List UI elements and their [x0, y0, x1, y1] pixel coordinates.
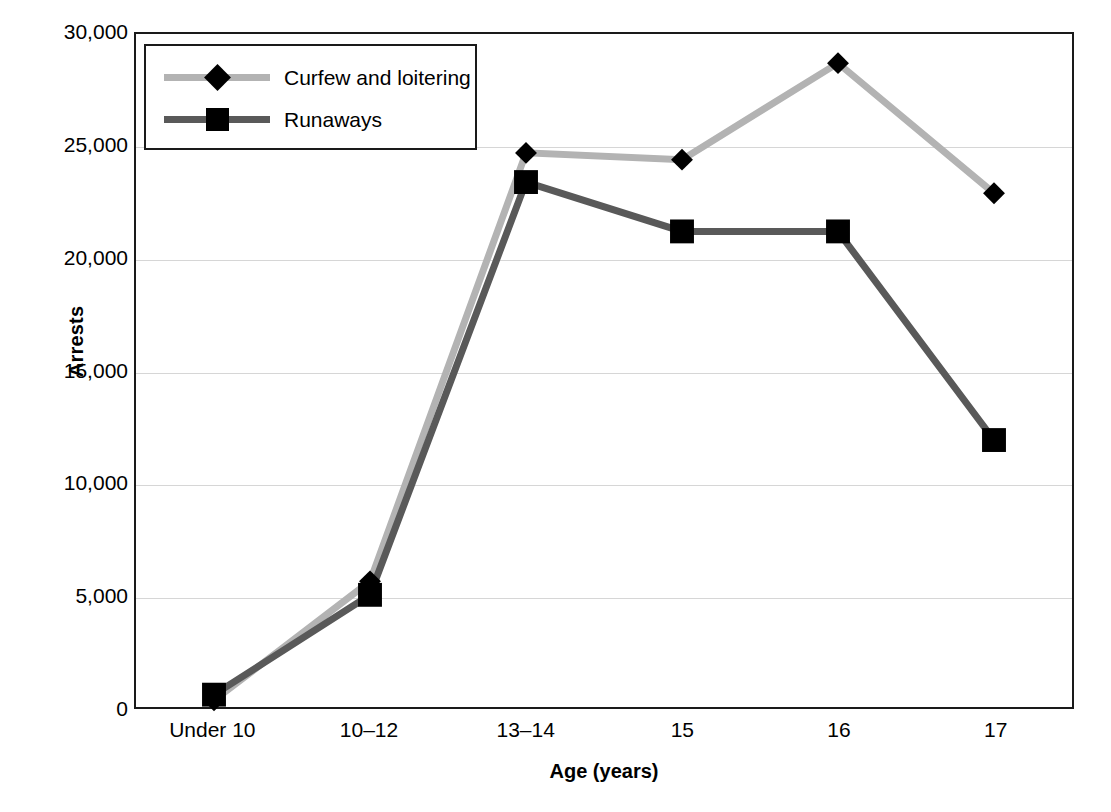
- data-point-square[interactable]: [358, 583, 382, 607]
- legend: Curfew and loitering Runaways: [144, 44, 477, 150]
- x-axis-title: Age (years): [134, 760, 1074, 783]
- data-point-diamond[interactable]: [515, 142, 537, 164]
- data-point-square[interactable]: [982, 428, 1006, 452]
- x-tick-label: 17: [896, 718, 1096, 742]
- legend-key-curfew: [164, 64, 270, 90]
- series-line: [214, 182, 994, 695]
- x-axis-tick-labels: Under 1010–1213–14151617: [134, 718, 1074, 752]
- data-point-square[interactable]: [202, 683, 226, 707]
- diamond-marker-icon: [204, 64, 231, 91]
- data-point-square[interactable]: [826, 219, 850, 243]
- y-tick-label: 25,000: [8, 134, 128, 155]
- y-tick-label: 30,000: [8, 21, 128, 42]
- legend-label-runaways: Runaways: [270, 109, 382, 130]
- y-axis-tick-labels: 05,00010,00015,00020,00025,00030,000: [0, 0, 128, 812]
- y-tick-label: 15,000: [8, 360, 128, 381]
- legend-key-runaways: [164, 106, 270, 132]
- legend-item-runaways[interactable]: Runaways: [146, 98, 475, 140]
- data-point-square[interactable]: [514, 170, 538, 194]
- legend-label-curfew: Curfew and loitering: [270, 67, 471, 88]
- y-tick-label: 5,000: [8, 585, 128, 606]
- arrests-by-age-line-chart: Arrests 05,00010,00015,00020,00025,00030…: [0, 0, 1111, 812]
- series-line: [214, 63, 994, 700]
- square-marker-icon: [206, 108, 229, 131]
- y-tick-label: 0: [8, 698, 128, 719]
- y-tick-label: 10,000: [8, 472, 128, 493]
- data-point-square[interactable]: [670, 219, 694, 243]
- legend-item-curfew-and-loitering[interactable]: Curfew and loitering: [146, 56, 475, 98]
- y-tick-label: 20,000: [8, 247, 128, 268]
